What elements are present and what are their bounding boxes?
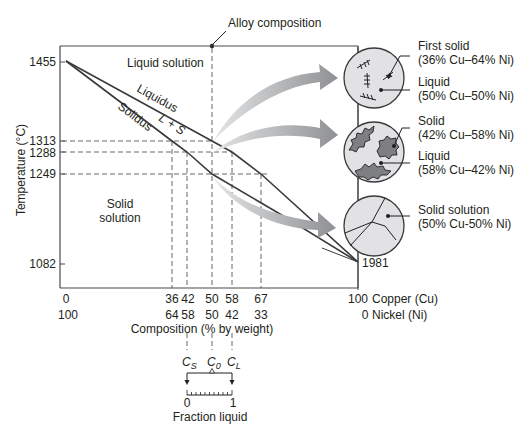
x-cu-36: 36 — [165, 292, 179, 306]
liquid-2-label: Liquid — [418, 149, 450, 163]
arrow-to-two-phase — [214, 119, 338, 152]
liquid-solution-label: Liquid solution — [127, 56, 204, 70]
microstructure-first-solid — [344, 48, 410, 108]
x-cu-67: 67 — [254, 292, 268, 306]
liquid-2-composition: (58% Cu–42% Ni) — [418, 163, 514, 177]
two-phase-label: L + S — [156, 111, 187, 138]
solid-label: Solid — [418, 114, 445, 128]
nickel-label: Nickel (Ni) — [372, 308, 427, 322]
solid-solution-micro-label: Solid solution — [418, 203, 489, 217]
fraction-scale-0: 0 — [184, 396, 191, 410]
solid-solution-label-2: solution — [99, 211, 140, 225]
c0-label: C0 — [207, 355, 221, 371]
x-cu-42: 42 — [181, 292, 195, 306]
y-tick-1288: 1288 — [29, 146, 56, 160]
x-ni-58: 58 — [181, 308, 195, 322]
microstructure-two-phase — [344, 122, 410, 182]
x-cu-58: 58 — [225, 292, 239, 306]
liquid-1-composition: (50% Cu–50% Ni) — [418, 89, 514, 103]
x-ni-0: 0 — [362, 308, 369, 322]
x-axis-label: Composition (% by weight) — [131, 322, 274, 336]
x-ni-64: 64 — [165, 308, 179, 322]
y-axis-label: Temperature (°C) — [14, 124, 28, 216]
solid-solution-label-1: Solid — [107, 197, 134, 211]
alloy-composition-leader — [212, 31, 226, 45]
x-ni-50: 50 — [205, 308, 219, 322]
alloy-composition-label: Alloy composition — [228, 16, 321, 30]
liquidus-label: Liquidus — [135, 81, 181, 115]
liquid-1-label: Liquid — [418, 75, 450, 89]
fraction-liquid-label: Fraction liquid — [173, 410, 248, 424]
copper-label: Copper (Cu) — [372, 292, 438, 306]
x-ni-100: 100 — [58, 308, 78, 322]
y-axis-ticks — [60, 62, 65, 264]
x-ni-42: 42 — [225, 308, 239, 322]
microstructure-solid-solution — [344, 196, 410, 256]
phase-diagram: Alloy composition 1455 1313 1288 1249 10… — [0, 0, 525, 441]
solidus-label: Solidus — [115, 99, 155, 134]
x-cu-0: 0 — [63, 292, 70, 306]
solid-solution-micro-composition: (50% Cu-50% Ni) — [418, 217, 511, 231]
x-cu-50: 50 — [205, 292, 219, 306]
fraction-scale-1: 1 — [230, 396, 237, 410]
first-solid-composition: (36% Cu–64% Ni) — [418, 53, 514, 67]
y-tick-1455: 1455 — [29, 55, 56, 69]
x-cu-100: 100 — [348, 292, 368, 306]
lever-rule: CS C0 CL 0 1 Fraction liquid — [173, 355, 248, 424]
first-solid-label: First solid — [418, 39, 469, 53]
cs-label: CS — [182, 355, 197, 371]
y-tick-1249: 1249 — [29, 167, 56, 181]
point-1981-label: 1981 — [362, 256, 389, 270]
y-tick-1082: 1082 — [29, 257, 56, 271]
cl-label: CL — [227, 355, 241, 371]
x-ni-33: 33 — [254, 308, 268, 322]
solid-composition: (42% Cu–58% Ni) — [418, 128, 514, 142]
